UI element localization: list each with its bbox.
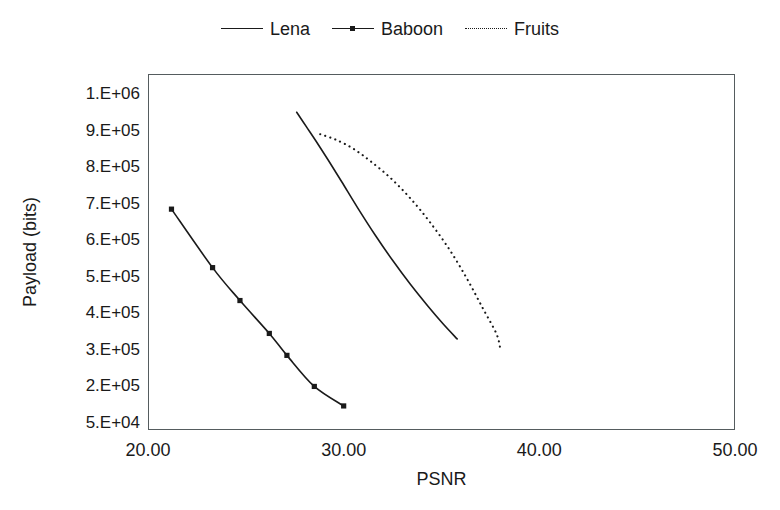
x-axis-tick-labels: 20.0030.0040.0050.00 <box>0 0 780 510</box>
x-axis-tick-label: 30.00 <box>284 441 404 459</box>
x-axis-title: PSNR <box>148 470 735 488</box>
y-axis-title: Payload (bits) <box>21 162 39 342</box>
x-axis-tick-label: 20.00 <box>88 441 208 459</box>
chart-figure: Lena Baboon Fruits 1.E+069.E+058.E+057.E… <box>0 0 780 510</box>
x-axis-tick-label: 50.00 <box>675 441 780 459</box>
x-axis-tick-label: 40.00 <box>479 441 599 459</box>
